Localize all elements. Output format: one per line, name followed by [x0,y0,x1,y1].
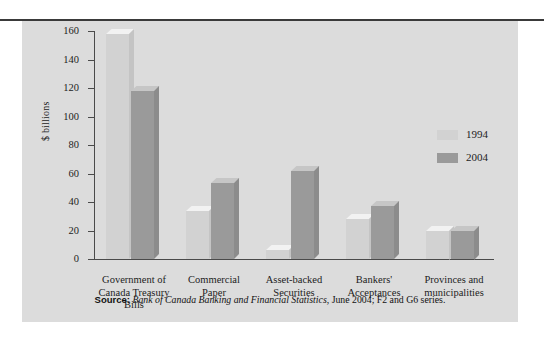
bar-2004 [451,231,474,260]
legend-swatch-icon [437,130,458,140]
category-label-line: Bankers' [334,274,414,287]
bar-1994 [186,211,209,259]
y-axis-tick: 140 [88,60,94,61]
y-axis-tick: 20 [88,231,94,232]
bar-side-face [394,201,399,259]
y-axis-line [94,31,95,259]
source-label: Source: [95,294,130,305]
y-axis-tick-label: 20 [69,225,80,236]
y-axis-tick: 60 [88,174,94,175]
legend-swatch-icon [437,153,458,163]
y-axis-tick-label: 40 [69,197,80,208]
category-label-line: Commercial [174,274,254,287]
y-axis-tick-label: 100 [63,111,79,122]
y-axis-tick-label: 140 [63,54,79,65]
bar-front-face [451,231,474,260]
y-axis-tick-label: 160 [63,26,79,37]
source-rest: , June 2004; F2 and G6 series. [327,294,446,305]
source-publication: Bank of Canada Banking and Financial Sta… [132,294,326,305]
bar-2004 [371,206,394,259]
y-axis-tick-label: 60 [69,168,80,179]
bar-1994 [346,219,369,259]
bar-front-face [426,231,449,260]
bar-side-face [154,86,159,259]
bar-1994 [106,34,129,259]
category-label-line: Provinces and [414,274,494,287]
bar-2004 [291,171,314,259]
y-axis-tick: 160 [88,31,94,32]
category-label-line: Asset-backed [254,274,334,287]
legend-swatch-face [437,130,458,140]
bar-front-face [186,211,209,259]
x-axis-line [94,259,494,260]
bar-front-face [346,219,369,259]
plot-area: 020406080100120140160 Government ofCanad… [94,31,494,259]
y-axis-tick-label: 120 [63,83,79,94]
bar-2004 [211,183,234,259]
bar-front-face [266,250,289,259]
bar-1994 [426,231,449,260]
legend-item-2004[interactable]: 2004 [437,152,488,163]
y-axis-tick-label: 80 [69,140,80,151]
bar-front-face [371,206,394,259]
chart-legend: 19942004 [437,129,488,175]
y-axis-tick: 40 [88,202,94,203]
bar-side-face [314,166,319,259]
legend-label: 1994 [466,129,488,140]
category-label-line: Government of [94,274,174,287]
bar-side-face [474,226,479,260]
bar-2004 [131,91,154,259]
figure-root: 020406080100120140160 Government ofCanad… [0,0,544,338]
bar-side-face [234,178,239,259]
y-axis-tick: 120 [88,88,94,89]
bar-front-face [106,34,129,259]
legend-label: 2004 [466,152,488,163]
bar-1994 [266,250,289,259]
legend-item-1994[interactable]: 1994 [437,129,488,140]
y-axis-tick: 80 [88,145,94,146]
y-axis-tick: 100 [88,117,94,118]
bar-front-face [131,91,154,259]
chart-panel: 020406080100120140160 Government ofCanad… [22,21,518,322]
legend-swatch-face [437,153,458,163]
y-axis-tick-label: 0 [74,254,79,265]
bar-front-face [211,183,234,259]
source-note: Source: Bank of Canada Banking and Finan… [22,293,518,306]
bar-front-face [291,171,314,259]
y-axis-tick: 0 [88,259,94,260]
y-axis-title: $ billions [40,101,51,141]
